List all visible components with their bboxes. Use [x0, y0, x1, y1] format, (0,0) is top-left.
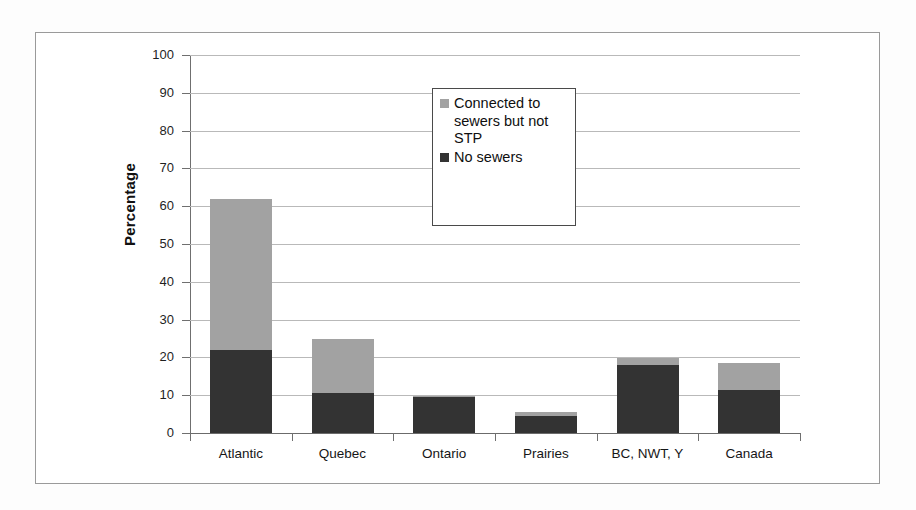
y-tick-label: 10	[132, 388, 174, 401]
y-tick-mark	[182, 131, 190, 132]
x-axis-label: BC, NWT, Y	[597, 446, 699, 461]
y-tick-mark	[182, 168, 190, 169]
gridline	[190, 395, 800, 396]
x-axis-label: Prairies	[495, 446, 597, 461]
legend-swatch-connected-not-stp	[440, 99, 449, 108]
y-tick-label: 100	[132, 48, 174, 61]
legend-label-connected-not-stp: Connected to sewers but not STP	[454, 95, 569, 148]
y-tick-mark	[182, 395, 190, 396]
legend-swatch-no-sewers	[440, 153, 449, 162]
y-tick-label: 90	[132, 86, 174, 99]
bar-group	[312, 55, 374, 433]
gridline	[190, 55, 800, 56]
legend-label-no-sewers: No sewers	[454, 149, 523, 167]
y-tick-mark	[182, 282, 190, 283]
bar-segment	[210, 350, 272, 433]
bar-segment	[312, 339, 374, 392]
legend-item-connected-not-stp: Connected to sewers but not STP	[440, 95, 569, 148]
bar-segment	[210, 199, 272, 350]
y-tick-label: 80	[132, 124, 174, 137]
y-axis-title: Percentage	[121, 163, 138, 246]
y-tick-label: 70	[132, 161, 174, 174]
y-axis-tick-labels: 0102030405060708090100	[128, 0, 174, 510]
x-tick-mark	[800, 433, 801, 441]
x-tick-mark	[495, 433, 496, 441]
y-tick-mark	[182, 357, 190, 358]
y-tick-label: 40	[132, 275, 174, 288]
x-axis-label: Canada	[698, 446, 800, 461]
bar-group	[718, 55, 780, 433]
y-tick-label: 50	[132, 237, 174, 250]
x-tick-mark	[190, 433, 191, 441]
gridline	[190, 282, 800, 283]
gridline	[190, 320, 800, 321]
y-tick-label: 30	[132, 313, 174, 326]
legend-item-no-sewers: No sewers	[440, 149, 569, 167]
x-axis-label: Ontario	[393, 446, 495, 461]
bar-segment	[718, 363, 780, 389]
bar-segment	[515, 416, 577, 433]
bar-segment	[413, 396, 475, 397]
y-tick-label: 20	[132, 350, 174, 363]
y-tick-mark	[182, 433, 190, 434]
x-tick-mark	[597, 433, 598, 441]
y-tick-label: 60	[132, 199, 174, 212]
y-tick-label: 0	[132, 426, 174, 439]
x-axis-label: Quebec	[292, 446, 394, 461]
bar-segment	[312, 393, 374, 433]
bar-segment	[617, 358, 679, 365]
y-tick-mark	[182, 320, 190, 321]
chart-legend: Connected to sewers but not STP No sewer…	[432, 88, 576, 226]
bar-segment	[718, 390, 780, 433]
y-tick-mark	[182, 244, 190, 245]
y-tick-mark	[182, 93, 190, 94]
bar-group	[617, 55, 679, 433]
chart-page: 0102030405060708090100 Percentage Atlant…	[0, 0, 916, 510]
x-axis-label: Atlantic	[190, 446, 292, 461]
bar-group	[210, 55, 272, 433]
gridline	[190, 357, 800, 358]
bar-segment	[515, 412, 577, 416]
y-tick-mark	[182, 206, 190, 207]
x-tick-mark	[698, 433, 699, 441]
bar-segment	[413, 397, 475, 433]
x-tick-mark	[393, 433, 394, 441]
bar-segment	[617, 365, 679, 433]
y-tick-mark	[182, 55, 190, 56]
x-tick-mark	[292, 433, 293, 441]
gridline	[190, 244, 800, 245]
